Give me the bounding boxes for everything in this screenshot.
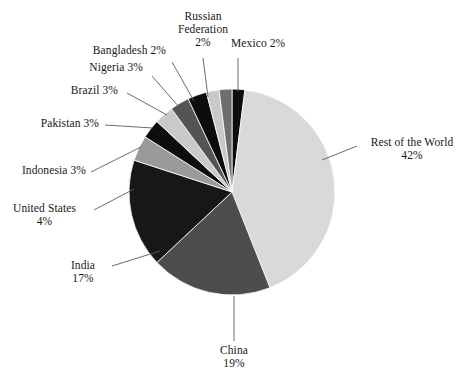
callout-rest-of-the-world-line1: Rest of the World xyxy=(359,136,465,149)
pie-slices xyxy=(129,89,335,295)
leader-line-nigeria xyxy=(152,76,179,107)
callout-rest-of-the-world-line2: 42% xyxy=(359,149,465,162)
callout-china-line1: China xyxy=(208,344,260,357)
callout-nigeria-line1: Nigeria 3% xyxy=(58,61,143,74)
leader-line-pakistan xyxy=(105,125,153,128)
leader-line-russian-federation xyxy=(203,58,208,97)
callout-united-states-line2: 4% xyxy=(2,215,87,228)
callout-china-line2: 19% xyxy=(208,357,260,370)
callout-indonesia: Indonesia 3% xyxy=(0,164,86,177)
callout-pakistan: Pakistan 3% xyxy=(16,117,99,130)
callout-india-line2: 17% xyxy=(58,272,108,285)
callout-china: China 19% xyxy=(208,344,260,370)
leader-line-bangladesh xyxy=(172,62,194,101)
leader-line-india xyxy=(112,251,160,266)
leader-line-united-states xyxy=(94,189,134,210)
callout-brazil: Brazil 3% xyxy=(43,84,118,97)
callout-russian-federation-line1: Russian xyxy=(155,10,251,23)
callout-pakistan-line1: Pakistan 3% xyxy=(16,117,99,130)
pie-chart-figure: Russian Federation 2% Mexico 2% Banglade… xyxy=(0,0,467,384)
callout-brazil-line1: Brazil 3% xyxy=(43,84,118,97)
callout-bangladesh: Bangladesh 2% xyxy=(66,44,166,57)
callout-united-states: United States 4% xyxy=(2,202,87,228)
leader-line-brazil xyxy=(127,93,167,115)
callout-indonesia-line1: Indonesia 3% xyxy=(0,164,86,177)
callout-india: India 17% xyxy=(58,259,108,285)
callout-bangladesh-line1: Bangladesh 2% xyxy=(66,44,166,57)
callout-mexico-line1: Mexico 2% xyxy=(231,37,285,50)
callout-united-states-line1: United States xyxy=(2,202,87,215)
callout-russian-federation-line2: Federation xyxy=(155,23,251,36)
pie-chart-canvas xyxy=(0,0,467,384)
callout-india-line1: India xyxy=(58,259,108,272)
callout-nigeria: Nigeria 3% xyxy=(58,61,143,74)
callout-mexico: Mexico 2% xyxy=(231,37,285,50)
callout-rest-of-the-world: Rest of the World 42% xyxy=(359,136,465,162)
